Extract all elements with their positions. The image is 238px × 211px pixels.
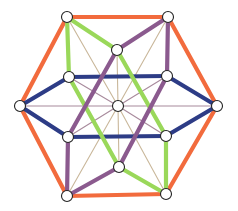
- node-L: [15, 101, 26, 112]
- node-C: [113, 101, 124, 112]
- edge-purple-TR-UC: [117, 17, 168, 50]
- node-BL: [62, 191, 73, 202]
- node-RMU: [162, 71, 173, 82]
- hexagonal-graph-diagram: [0, 0, 238, 211]
- node-TR: [163, 12, 174, 23]
- node-R: [212, 101, 223, 112]
- node-LMU: [64, 72, 75, 83]
- node-BR: [161, 189, 172, 200]
- edge-navy-LML-RML: [68, 136, 166, 137]
- node-TL: [62, 12, 73, 23]
- node-LML: [63, 132, 74, 143]
- node-LC: [114, 162, 125, 173]
- edge-purple-TR-RMU: [167, 17, 168, 76]
- node-UC: [112, 45, 123, 56]
- edge-navy-LMU-RMU: [69, 76, 167, 77]
- node-RML: [161, 131, 172, 142]
- edge-purple-LML-BL: [67, 137, 68, 196]
- edge-purple-UC-LML: [68, 50, 117, 137]
- edge-green-TL-UC: [67, 17, 117, 50]
- edge-green-TL-LMU: [67, 17, 69, 77]
- edge-orange-BR-BL: [67, 194, 166, 196]
